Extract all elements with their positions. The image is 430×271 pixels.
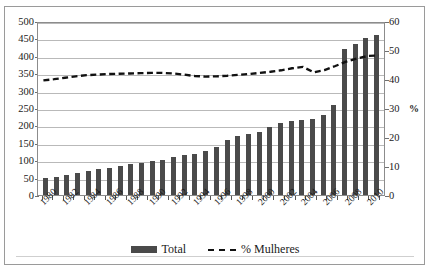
bar — [374, 35, 379, 195]
bar — [171, 157, 176, 195]
bar-swatch-icon — [131, 246, 157, 253]
y-axis-left-tick-label: 250 — [18, 104, 34, 115]
bar — [214, 147, 219, 195]
bar — [299, 120, 304, 195]
y-axis-left-tick-label: 50 — [24, 173, 35, 184]
bar — [128, 164, 133, 195]
bar — [353, 44, 358, 195]
y-axis-left-tick-label: 500 — [18, 17, 34, 28]
bar — [321, 115, 326, 195]
chart-legend: Total % Mulheres — [0, 242, 430, 257]
y-axis-right-tick-label: 10 — [389, 162, 400, 173]
y-axis-left-tick-label: 150 — [18, 139, 34, 150]
bar — [363, 38, 368, 195]
bar — [342, 49, 347, 195]
y-axis-right-tick-label: 20 — [389, 133, 400, 144]
bar — [310, 119, 315, 195]
legend-label-percent-mulheres: % Mulheres — [241, 242, 299, 257]
plot-area — [37, 22, 385, 196]
bar-series-total — [38, 23, 384, 195]
y-axis-left-tick-label: 200 — [18, 121, 34, 132]
bar — [235, 136, 240, 196]
y-axis-right-tick-label: 40 — [389, 75, 400, 86]
bar — [278, 123, 283, 195]
bar — [192, 154, 197, 195]
bar — [289, 121, 294, 195]
y-axis-left-tick-label: 0 — [29, 191, 34, 202]
y-axis-right-tick-label: 30 — [389, 104, 400, 115]
y-axis-right-tick-label: 60 — [389, 17, 400, 28]
bar — [257, 132, 262, 195]
x-axis-labels: 1980198219841986198819901992199419961998… — [37, 200, 385, 240]
y-axis-right-tick-label: 0 — [389, 191, 394, 202]
dashed-line-swatch-icon — [208, 249, 236, 251]
y-axis-right-tick-label: 50 — [389, 46, 400, 57]
legend-item-total: Total — [131, 242, 187, 257]
y-axis-left-tick-label: 400 — [18, 52, 34, 63]
y-axis-left-tick-label: 450 — [18, 34, 34, 45]
chart-figure: 050100150200250300350400450500 0102030%4… — [0, 0, 430, 271]
legend-label-total: Total — [162, 242, 187, 257]
y-axis-left-tick-label: 100 — [18, 156, 34, 167]
y-axis-left-tick-label: 300 — [18, 86, 34, 97]
legend-divider — [16, 256, 414, 257]
bar — [150, 161, 155, 195]
y-axis-right-unit-label: % — [409, 104, 419, 114]
legend-item-percent-mulheres: % Mulheres — [208, 242, 299, 257]
y-axis-left-tick-label: 350 — [18, 69, 34, 80]
bar — [331, 105, 336, 195]
bar — [267, 127, 272, 195]
